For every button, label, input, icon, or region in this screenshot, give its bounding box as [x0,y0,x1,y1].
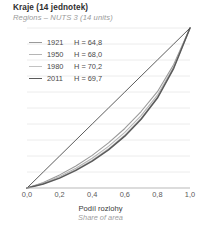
legend-year-1950: 1950 [47,50,69,59]
x-tick-label: 0,6 [120,190,130,199]
x-tick-label: 0,4 [87,190,97,199]
x-axis-label-sub: Share of area [0,213,201,222]
chart-title: Kraje (14 jednotek) [13,3,88,12]
legend-value-2011: H = 69,7 [74,74,102,83]
legend-swatch-1950 [29,54,42,55]
x-tick-label: 0,0 [22,190,32,199]
chart-subtitle: Regions – NUTS 3 (14 units) [13,13,113,22]
legend-item[interactable]: 1921 H = 64,8 [29,36,129,48]
legend-item[interactable]: 1980 H = 70,2 [29,60,129,72]
x-tick-label: 0,8 [152,190,162,199]
x-axis-label: Podíl rozlohy [0,204,201,213]
legend-value-1921: H = 64,8 [74,38,102,47]
x-tick-label: 0,2 [54,190,64,199]
legend-year-1980: 1980 [47,62,69,71]
legend-value-1950: H = 68,0 [74,50,102,59]
lorenz-curve-chart: Kraje (14 jednotek) Regions – NUTS 3 (14… [0,0,201,243]
legend-item[interactable]: 2011 H = 69,7 [29,72,129,84]
legend-swatch-1921 [29,42,42,43]
x-tick-label: 1,0 [185,190,195,199]
legend-swatch-2011 [29,78,42,79]
legend-year-1921: 1921 [47,38,69,47]
x-axis-ticks: 0,00,20,40,60,81,0 [0,190,201,202]
legend-value-1980: H = 70,2 [74,62,102,71]
legend-year-2011: 2011 [47,74,69,83]
legend-item[interactable]: 1950 H = 68,0 [29,48,129,60]
legend-swatch-1980 [29,66,42,67]
legend: 1921 H = 64,8 1950 H = 68,0 1980 H = 70,… [29,36,129,84]
